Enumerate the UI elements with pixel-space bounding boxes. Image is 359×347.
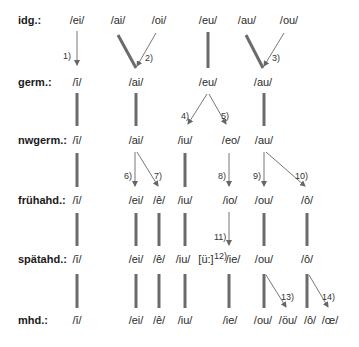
phoneme-idg-ei: /ei/ — [70, 14, 85, 26]
thick-line-au — [246, 35, 263, 68]
footnote-11: 11) — [214, 232, 226, 242]
arrow-14 — [309, 275, 328, 307]
phoneme-fruehahd-e-circ: /ê/ — [153, 194, 165, 206]
phoneme-germ-i-long: /ī/ — [72, 76, 81, 88]
phoneme-mhd-o-circ: /ô/ — [304, 314, 316, 326]
phoneme-spaetahd-o-circ: /ô/ — [301, 253, 313, 265]
phoneme-idg-ai: /ai/ — [111, 14, 126, 26]
phoneme-nwgerm-i-long: /ī/ — [72, 134, 81, 146]
phoneme-spaetahd-i-long: /ī/ — [72, 253, 81, 265]
footnote-5: 5) — [221, 111, 229, 121]
phoneme-spaetahd-ie: /ie/ — [226, 253, 241, 265]
arrow-13 — [266, 275, 286, 307]
footnote-3: 3) — [272, 53, 280, 63]
row-label-spaetahd: spätahd.: — [18, 253, 67, 265]
footnote-9: 9) — [253, 171, 261, 181]
phoneme-fruehahd-io: /io/ — [223, 194, 238, 206]
phoneme-nwgerm-au: /au/ — [255, 134, 273, 146]
phoneme-germ-ai: /ai/ — [129, 76, 144, 88]
phoneme-mhd-i-long: /ī/ — [72, 314, 81, 326]
phoneme-fruehahd-iu: /iu/ — [178, 194, 193, 206]
footnote-13: 13) — [281, 292, 294, 302]
sound-change-diagram: idg.: germ.: nwgerm.: frühahd.: spätahd.… — [0, 0, 359, 347]
arrow-4 — [188, 94, 207, 124]
phoneme-spaetahd-ou: /ou/ — [255, 253, 273, 265]
phoneme-spaetahd-e-circ: /ê/ — [153, 253, 165, 265]
phoneme-mhd-oe: /œ/ — [322, 314, 339, 326]
footnote-7: 7) — [154, 171, 162, 181]
phoneme-germ-eu: /eu/ — [199, 76, 217, 88]
phoneme-idg-oi: /oi/ — [152, 14, 167, 26]
phoneme-spaetahd-ei: /ei/ — [129, 253, 144, 265]
phoneme-spaetahd-ue-long: [ü:] — [198, 253, 213, 265]
phoneme-fruehahd-ou: /ou/ — [255, 194, 273, 206]
footnote-8: 8) — [218, 171, 226, 181]
thick-line-ai — [118, 35, 136, 68]
footnote-1: 1) — [63, 51, 71, 61]
phoneme-nwgerm-ai: /ai/ — [129, 134, 144, 146]
row-label-idg: idg.: — [18, 14, 41, 26]
phoneme-nwgerm-iu: /iu/ — [178, 134, 193, 146]
row-label-fruehahd: frühahd.: — [18, 194, 66, 206]
footnote-14: 14) — [322, 292, 335, 302]
phoneme-idg-au: /au/ — [238, 14, 256, 26]
footnote-2: 2) — [145, 53, 153, 63]
phoneme-fruehahd-o-circ: /ô/ — [301, 194, 313, 206]
phoneme-nwgerm-eo: /eo/ — [222, 134, 240, 146]
row-label-nwgerm: nwgerm.: — [18, 134, 67, 146]
footnote-6: 6) — [124, 171, 132, 181]
footnote-4: 4) — [181, 111, 189, 121]
row-label-germ: germ.: — [18, 76, 52, 88]
phoneme-fruehahd-i-long: /ī/ — [72, 194, 81, 206]
phoneme-mhd-e-circ: /ê/ — [153, 314, 165, 326]
phoneme-mhd-ei: /ei/ — [129, 314, 144, 326]
phoneme-mhd-ou: /ou/ — [254, 314, 272, 326]
phoneme-germ-au: /au/ — [254, 76, 272, 88]
phoneme-spaetahd-iu: /iu/ — [176, 253, 191, 265]
phoneme-mhd-iu: /iu/ — [178, 314, 193, 326]
phoneme-idg-ou: /ou/ — [280, 14, 298, 26]
phoneme-mhd-ie: /ie/ — [223, 314, 238, 326]
phoneme-mhd-oeu: /öu/ — [279, 314, 297, 326]
phoneme-idg-eu: /eu/ — [199, 14, 217, 26]
row-label-mhd: mhd.: — [18, 314, 48, 326]
phoneme-fruehahd-ei: /ei/ — [129, 194, 144, 206]
footnote-10: 10) — [295, 171, 308, 181]
